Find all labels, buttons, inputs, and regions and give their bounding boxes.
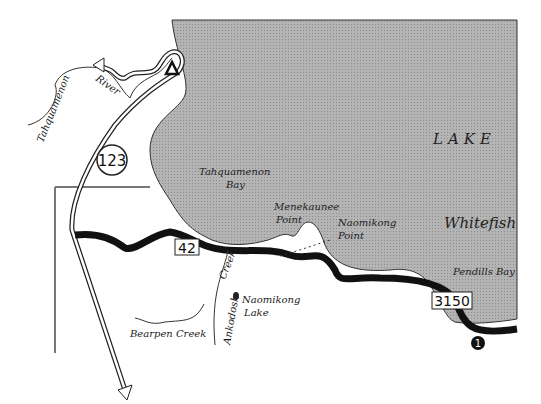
naomikong-point-label-2: Point xyxy=(337,230,365,241)
point-1-label: 1 xyxy=(475,338,481,349)
map-canvas: 123 42 3150 1 LAKE Whitefish Tahquamenon… xyxy=(0,0,541,404)
naomikong-point-label-1: Naomikong xyxy=(337,217,396,228)
lake-label: LAKE xyxy=(432,130,496,148)
ankodosh-creek-label-2: Creek xyxy=(217,249,239,281)
pendills-bay-label: Pendills Bay xyxy=(452,266,515,277)
ankodosh-creek-label-1: Ankodosh xyxy=(221,294,241,346)
route-123-road xyxy=(72,52,182,390)
arrowhead-south xyxy=(118,385,132,400)
route-3150-label: 3150 xyxy=(434,293,470,309)
menekaunee-point-label-2: Point xyxy=(275,214,303,225)
bearpen-creek-label: Bearpen Creek xyxy=(129,328,206,339)
menekaunee-point-label-1: Menekaunee xyxy=(273,201,339,212)
bearpen-creek xyxy=(135,304,204,323)
route-123-label: 123 xyxy=(98,152,127,170)
naomikong-lake-label-2: Lake xyxy=(243,307,269,318)
tahquamenon-river-label-1: Tahquamenon xyxy=(35,73,72,143)
tahquamenon-bay-label-1: Tahquamenon xyxy=(199,166,270,177)
naomikong-lake-label-1: Naomikong xyxy=(241,294,300,305)
route-42-label: 42 xyxy=(178,240,196,256)
whitefish-label: Whitefish xyxy=(444,214,516,232)
arrowhead-west xyxy=(93,58,104,72)
tahquamenon-bay-label-2: Bay xyxy=(225,179,245,190)
